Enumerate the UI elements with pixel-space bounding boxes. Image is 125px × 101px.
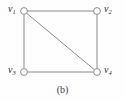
vertex-label-v3-subscript: 3 [12,69,15,76]
vertex-label-v3: v3 [8,65,16,75]
graph-figure: v1 v2 v3 v4 (b) [0,0,125,101]
vertex-label-v1-subscript: 1 [12,8,15,15]
edge-v1-v4-diagonal [27,13,95,69]
vertex-label-v4: v4 [104,65,112,75]
vertex-v3 [21,69,28,76]
figure-caption: (b) [0,84,125,96]
vertex-label-v2-subscript: 2 [108,8,111,15]
vertex-label-v2: v2 [104,4,112,14]
vertex-label-v4-subscript: 4 [108,69,111,76]
vertex-v1 [21,8,28,15]
vertex-label-v1: v1 [8,4,16,14]
vertex-v2 [94,8,101,15]
vertex-v4 [94,69,101,76]
